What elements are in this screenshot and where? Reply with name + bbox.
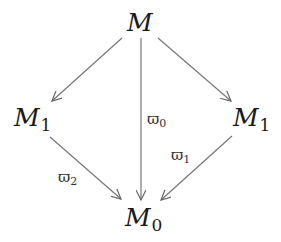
label-varpi-2-symbol: ϖ bbox=[58, 168, 70, 186]
node-right-sub: 1 bbox=[260, 115, 271, 135]
arrow-top-to-right bbox=[158, 38, 231, 101]
label-varpi-1: ϖ1 bbox=[171, 148, 190, 163]
node-right: M1 bbox=[233, 105, 270, 130]
commutative-diagram: M M1 M1 M0 ϖ0 ϖ2 ϖ1 bbox=[0, 0, 281, 242]
label-varpi-1-sub: 1 bbox=[183, 153, 190, 166]
node-bottom-sub: 0 bbox=[152, 215, 163, 235]
node-bottom: M0 bbox=[125, 205, 162, 230]
node-top-symbol: M bbox=[127, 8, 153, 37]
label-varpi-1-symbol: ϖ bbox=[171, 146, 183, 164]
node-left: M1 bbox=[14, 105, 51, 130]
arrow-top-to-left bbox=[52, 38, 122, 101]
node-right-symbol: M bbox=[233, 103, 259, 132]
label-varpi-0-sub: 0 bbox=[159, 117, 166, 130]
label-varpi-2-sub: 2 bbox=[70, 175, 77, 188]
label-varpi-0: ϖ0 bbox=[147, 112, 166, 127]
node-left-symbol: M bbox=[14, 103, 40, 132]
node-left-sub: 1 bbox=[41, 115, 52, 135]
node-bottom-symbol: M bbox=[125, 203, 151, 232]
node-top: M bbox=[127, 10, 154, 35]
label-varpi-0-symbol: ϖ bbox=[147, 110, 159, 128]
label-varpi-2: ϖ2 bbox=[58, 170, 77, 185]
